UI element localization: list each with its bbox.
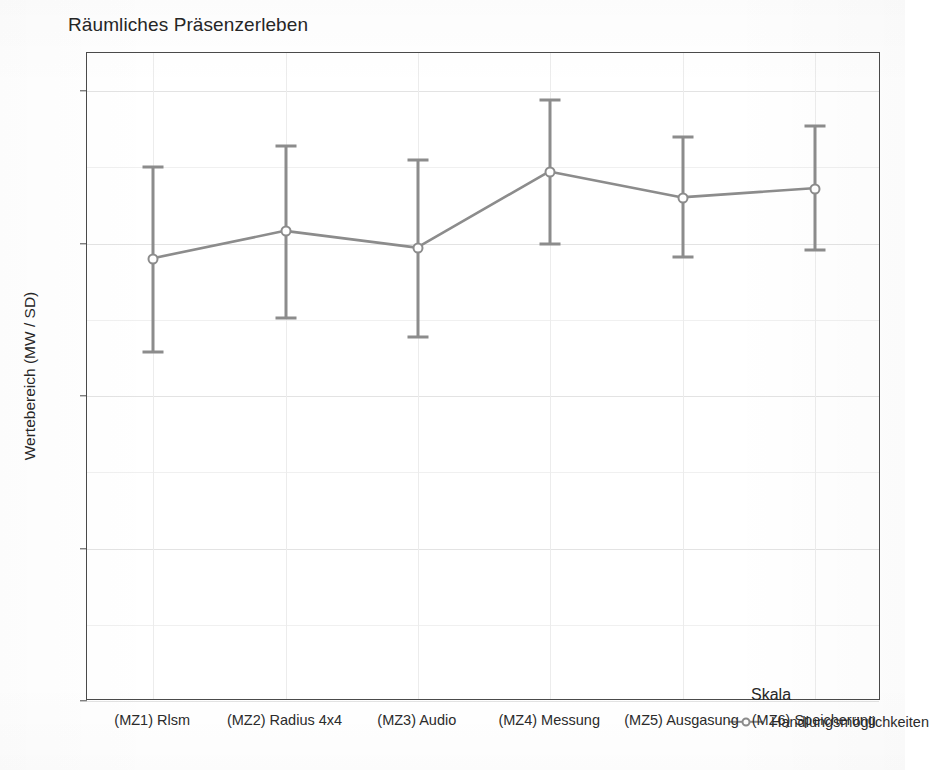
chart-title: Räumliches Präsenzerleben — [68, 14, 308, 36]
x-tick-label-4: (MZ5) Ausgasung — [624, 712, 738, 728]
gridline-y-2 — [87, 549, 879, 550]
x-tick-label-0: (MZ1) Rlsm — [114, 712, 190, 728]
gridline-x-2 — [418, 53, 419, 699]
gridline-y-minor — [87, 472, 879, 473]
gridline-y-4 — [87, 244, 879, 245]
y-axis-title: Wertebereich (MW / SD) — [21, 292, 39, 461]
legend-title: Skala — [729, 686, 929, 704]
error-bar-cap-1-low — [275, 317, 296, 320]
x-tick-label-1: (MZ2) Radius 4x4 — [227, 712, 342, 728]
y-tick-mark-1 — [80, 700, 87, 701]
data-point-1 — [280, 226, 291, 237]
x-tick-label-5: (MZ6) Speicherung — [752, 712, 876, 728]
error-bar-cap-2-low — [407, 335, 428, 338]
gridline-y-minor — [87, 320, 879, 321]
error-bar-cap-2-high — [407, 158, 428, 161]
error-bar-cap-3-high — [540, 99, 561, 102]
gridline-y-5 — [87, 91, 879, 92]
gridline-x-0 — [153, 53, 154, 699]
series-polyline — [87, 53, 879, 699]
data-point-0 — [148, 253, 159, 264]
error-bar-cap-0-low — [143, 350, 164, 353]
plot-area: Skala Handlungsmöglichkeiten — [86, 52, 880, 700]
x-tick-label-3: (MZ4) Messung — [498, 712, 600, 728]
error-bar-cap-4-high — [672, 135, 693, 138]
error-bar-cap-0-high — [143, 166, 164, 169]
y-tick-mark-5 — [80, 90, 87, 91]
gridline-y-minor — [87, 167, 879, 168]
data-point-4 — [677, 192, 688, 203]
gridline-y-3 — [87, 396, 879, 397]
gridline-y-minor — [87, 625, 879, 626]
data-point-5 — [809, 183, 820, 194]
error-bar-cap-1-high — [275, 145, 296, 148]
error-bar-cap-4-low — [672, 256, 693, 259]
data-point-3 — [545, 166, 556, 177]
data-point-2 — [412, 243, 423, 254]
error-bar-cap-5-low — [804, 248, 825, 251]
y-axis-title-container: Wertebereich (MW / SD) — [32, 52, 34, 700]
x-tick-label-2: (MZ3) Audio — [377, 712, 456, 728]
y-tick-mark-4 — [80, 243, 87, 244]
y-tick-mark-3 — [80, 395, 87, 396]
y-tick-mark-2 — [80, 548, 87, 549]
error-bar-cap-3-low — [540, 242, 561, 245]
error-bar-cap-5-high — [804, 125, 825, 128]
